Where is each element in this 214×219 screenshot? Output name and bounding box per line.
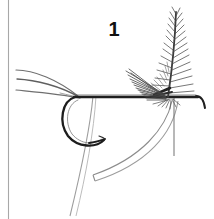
step-number-label: 1 [100, 17, 128, 41]
fly-tying-figure: 1 [0, 0, 214, 219]
